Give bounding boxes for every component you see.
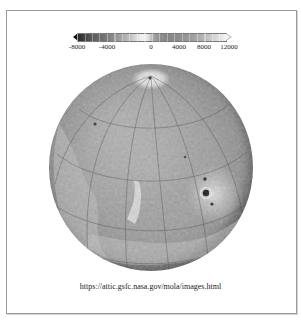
colorbar-tick-label: -4000 (99, 43, 115, 51)
globe-surface (49, 64, 253, 271)
colorbar-gradient (77, 33, 227, 42)
colorbar-tick-label: 0 (149, 43, 153, 51)
mars-globe (49, 64, 253, 271)
source-caption: https://attic.gsfc.nasa.gov/mola/images.… (0, 282, 301, 291)
colorbar-tick-label: 12000 (220, 43, 238, 51)
colorbar-tick-label: -8000 (69, 43, 85, 51)
colorbar-tick-label: 8000 (197, 43, 211, 51)
colorbar: -8000 -4000 0 4000 8000 12000 (73, 31, 233, 55)
colorbar-tick-label: 4000 (172, 43, 186, 51)
